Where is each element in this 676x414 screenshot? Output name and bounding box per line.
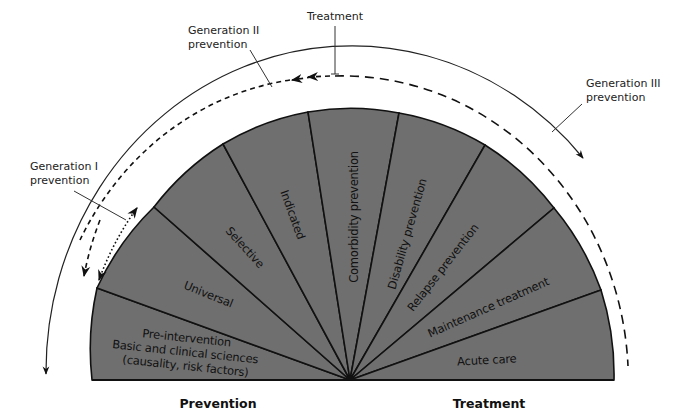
prevention-treatment-semicircle-diagram: Pre-intervention Basic and clinical scie…: [0, 0, 676, 414]
generation-1-callout: Generation I prevention: [30, 160, 126, 220]
generation-3-leader-line: [552, 104, 582, 132]
section-label-treatment: Treatment: [453, 396, 526, 411]
section-label-prevention: Prevention: [179, 396, 256, 411]
generation-2-arrow-segment-back: [308, 76, 330, 77]
generation-2-leader-line: [250, 50, 272, 87]
treatment-callout-label: Treatment: [306, 10, 364, 23]
generation-2-label: Generation II prevention: [188, 24, 263, 51]
generation-3-callout: Generation III prevention: [552, 77, 664, 132]
generation-1-leader-line: [74, 191, 126, 220]
generation-2-callout: Generation II prevention: [188, 24, 272, 87]
treatment-callout: Treatment: [306, 10, 364, 74]
generation-1-label: Generation I prevention: [30, 160, 102, 187]
generation-3-label: Generation III prevention: [586, 77, 664, 104]
label-comorbidity-prevention: Comorbidity prevention: [347, 151, 361, 283]
center-hub: [347, 375, 353, 381]
